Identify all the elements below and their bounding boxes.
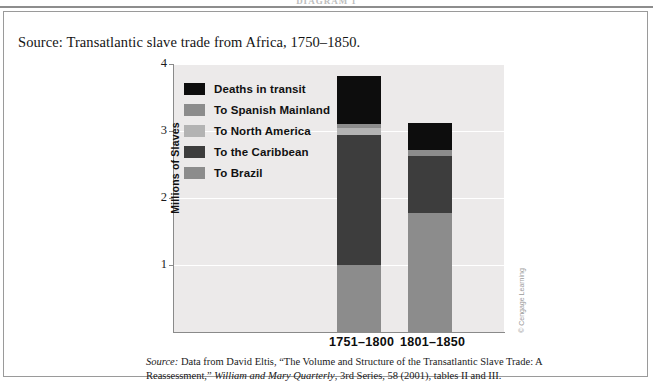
footnote-part-2: , 3rd Series, 58 (2001), tables II and I… (335, 370, 502, 381)
legend-swatch-to-north-america (184, 125, 205, 137)
legend-swatch-to-spanish-mainland (184, 104, 205, 116)
legend-item-to-north-america: To North America (184, 122, 330, 140)
segment-deaths-in-transit (337, 76, 381, 124)
y-tick-label-3: 3 (145, 123, 167, 138)
x-axis-line (173, 332, 505, 333)
legend-label-to-north-america: To North America (214, 125, 311, 137)
legend-swatch-deaths-in-transit (184, 83, 205, 95)
legend-label-to-the-caribbean: To the Caribbean (214, 146, 309, 158)
x-tick-label-1751-1800: 1751–1800 (329, 335, 389, 349)
y-tick-label-4: 4 (145, 56, 167, 71)
y-tick-mark-1 (169, 265, 174, 266)
gridline-4 (174, 64, 504, 65)
legend-label-to-brazil: To Brazil (214, 167, 263, 179)
bar-1751-1800 (337, 76, 381, 332)
top-rule (0, 6, 653, 8)
segment-to-the-caribbean (337, 135, 381, 265)
legend-item-to-the-caribbean: To the Caribbean (184, 143, 330, 161)
figure-box: Source: Transatlantic slave trade from A… (3, 11, 648, 377)
segment-to-brazil (408, 213, 452, 332)
y-tick-mark-4 (169, 64, 174, 65)
legend-label-deaths-in-transit: Deaths in transit (214, 83, 306, 95)
legend-label-to-spanish-mainland: To Spanish Mainland (214, 104, 330, 116)
y-axis-title: Millions of Slaves (169, 108, 181, 228)
segment-to-brazil (337, 265, 381, 332)
legend-item-deaths-in-transit: Deaths in transit (184, 80, 330, 98)
y-tick-label-1: 1 (145, 257, 167, 272)
x-tick-label-1801-1850: 1801–1850 (400, 335, 460, 349)
y-tick-label-2: 2 (145, 190, 167, 205)
segment-to-the-caribbean (408, 156, 452, 213)
chart-legend: Deaths in transit To Spanish Mainland To… (184, 80, 330, 185)
legend-item-to-spanish-mainland: To Spanish Mainland (184, 101, 330, 119)
footnote-journal-title: William and Mary Quarterly (214, 370, 334, 381)
bar-1801-1850 (408, 123, 452, 332)
legend-swatch-to-the-caribbean (184, 146, 205, 158)
footnote-source-word: Source: (146, 356, 178, 367)
legend-item-to-brazil: To Brazil (184, 164, 330, 182)
figure-footnote: Source: Data from David Eltis, “The Volu… (146, 355, 546, 382)
legend-swatch-to-brazil (184, 167, 205, 179)
copyright-credit: © Cengage Learning (518, 251, 525, 351)
segment-to-north-america (337, 128, 381, 135)
stacked-bar-chart: 4 3 2 1 Millions of Slaves 1751–1800 180… (4, 12, 653, 382)
segment-deaths-in-transit (408, 123, 452, 150)
